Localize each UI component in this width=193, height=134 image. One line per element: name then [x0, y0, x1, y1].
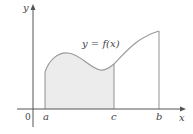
marker-label-b: b	[156, 111, 162, 122]
origin-label: 0	[25, 112, 31, 122]
marker-label-a: a	[43, 111, 49, 122]
function-label: y = f(x)	[81, 38, 120, 49]
marker-label-c: c	[111, 111, 117, 122]
shaded-region-a-to-c	[45, 53, 114, 109]
y-axis-label: y	[22, 2, 29, 13]
y-axis-arrow-icon	[31, 4, 36, 10]
x-axis-arrow-icon	[180, 107, 186, 112]
area-under-curve-figure: y x 0 a c b y = f(x)	[0, 0, 193, 134]
x-axis-label: x	[179, 112, 185, 123]
